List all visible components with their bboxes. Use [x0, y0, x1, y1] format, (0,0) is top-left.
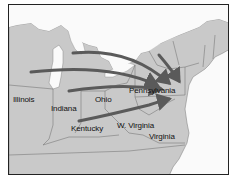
label-kentucky: Kentucky: [71, 125, 103, 133]
label-virginia: Virginia: [149, 133, 175, 141]
map-frame: Illinois Indiana Ohio Pennsylvania Kentu…: [8, 4, 229, 175]
label-illinois: Illinois: [13, 96, 34, 104]
label-ohio: Ohio: [95, 96, 112, 104]
label-indiana: Indiana: [51, 105, 77, 113]
migration-map: [9, 5, 229, 175]
label-w-virginia: W. Virginia: [117, 122, 154, 130]
label-pennsylvania: Pennsylvania: [129, 87, 175, 95]
